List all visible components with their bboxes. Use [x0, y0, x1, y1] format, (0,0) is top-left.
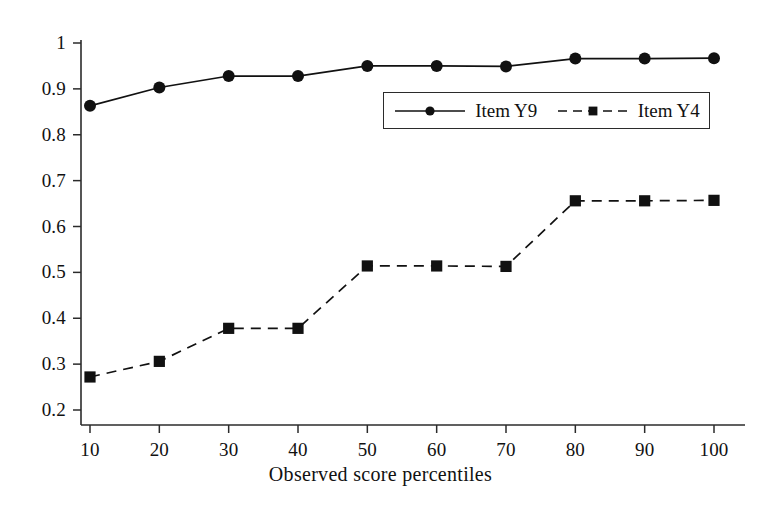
circle-marker: [292, 70, 304, 82]
circle-marker: [431, 60, 443, 72]
x-tick-label: 10: [80, 439, 99, 461]
square-marker: [292, 323, 303, 334]
y-tick-label: 0.5: [0, 261, 66, 283]
square-marker: [500, 261, 511, 272]
x-tick-label: 20: [150, 439, 169, 461]
x-axis-title: Observed score percentiles: [0, 463, 761, 486]
square-marker: [223, 323, 234, 334]
circle-marker: [153, 82, 165, 94]
y-tick-label: 0.3: [0, 353, 66, 375]
square-marker: [154, 356, 165, 367]
x-tick-label: 60: [427, 439, 446, 461]
circle-marker: [639, 53, 651, 65]
square-marker: [570, 195, 581, 206]
y-tick-label: 0.9: [0, 78, 66, 100]
x-axis-ticks: [90, 425, 714, 433]
circle-marker: [708, 52, 720, 64]
y-tick-label: 1: [0, 32, 66, 54]
legend-label-item-y4: Item Y4: [638, 100, 700, 122]
solid-line-circle-marker-icon: [393, 104, 467, 118]
legend-entry-item-y4[interactable]: Item Y4: [556, 100, 700, 122]
square-marker: [639, 195, 650, 206]
circle-marker: [500, 60, 512, 72]
y-tick-label: 0.7: [0, 170, 66, 192]
circle-marker: [223, 70, 235, 82]
chart-legend: Item Y9 Item Y4: [383, 92, 710, 129]
y-tick-label: 0.8: [0, 124, 66, 146]
series-item-y4: [84, 195, 719, 383]
y-tick-label: 0.2: [0, 399, 66, 421]
legend-entry-item-y9[interactable]: Item Y9: [393, 100, 537, 122]
circle-marker: [84, 100, 96, 112]
x-tick-label: 100: [699, 439, 728, 461]
square-marker: [84, 371, 95, 382]
x-tick-label: 90: [635, 439, 654, 461]
x-tick-label: 30: [219, 439, 238, 461]
x-tick-label: 50: [358, 439, 377, 461]
chart-figure: 0.20.30.40.50.60.70.80.91 10203040506070…: [0, 0, 761, 516]
legend-label-item-y9: Item Y9: [475, 100, 537, 122]
y-axis-ticks: [73, 43, 81, 410]
x-tick-label: 70: [496, 439, 515, 461]
dashed-line-square-marker-icon: [556, 104, 630, 118]
x-tick-label: 80: [566, 439, 585, 461]
square-marker: [708, 195, 719, 206]
circle-marker: [361, 60, 373, 72]
y-tick-label: 0.4: [0, 307, 66, 329]
square-marker: [362, 260, 373, 271]
square-marker: [431, 260, 442, 271]
x-tick-label: 40: [288, 439, 307, 461]
y-tick-label: 0.6: [0, 216, 66, 238]
circle-marker: [569, 53, 581, 65]
dashed-line: [90, 200, 714, 377]
